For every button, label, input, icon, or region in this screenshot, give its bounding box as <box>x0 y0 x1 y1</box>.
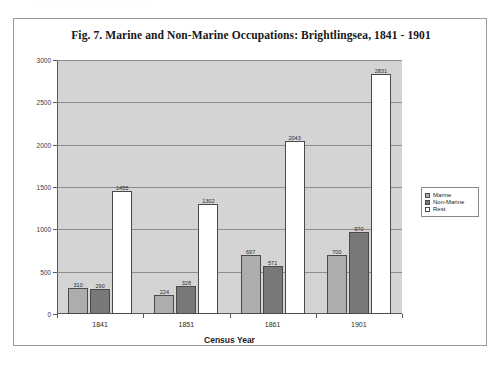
bar-marine[interactable]: 697 <box>241 255 261 314</box>
bar-marine[interactable]: 310 <box>68 288 88 314</box>
y-axis-label: 1000 <box>37 226 51 233</box>
bar-value-label: 310 <box>74 282 83 288</box>
x-axis-tick <box>57 314 58 318</box>
bar-rest[interactable]: 1302 <box>198 204 218 314</box>
bar-value-label: 1455 <box>116 185 128 191</box>
legend-item-nonmarine[interactable]: Non-Marine <box>425 199 475 205</box>
x-axis-tick <box>316 314 317 318</box>
plot-wrapper: 050010001500200025003000 310290145522432… <box>57 60 402 314</box>
legend-swatch-icon <box>425 200 430 205</box>
legend-item-marine[interactable]: Marine <box>425 192 475 198</box>
bar-value-label: 224 <box>160 289 169 295</box>
x-axis-tick <box>402 314 403 318</box>
legend-swatch-icon <box>425 193 430 198</box>
bar-group: 3102901455 <box>57 60 143 314</box>
bar-value-label: 1302 <box>202 198 214 204</box>
y-axis-label: 1500 <box>37 184 51 191</box>
legend-swatch-icon <box>425 207 430 212</box>
bar-nonmarine[interactable]: 328 <box>176 286 196 314</box>
bar-value-label: 970 <box>354 226 363 232</box>
bar-marine[interactable]: 224 <box>154 295 174 314</box>
bar-value-label: 571 <box>268 260 277 266</box>
y-axis-label: 500 <box>40 268 51 275</box>
bar-nonmarine[interactable]: 290 <box>90 289 110 314</box>
bar-value-label: 2831 <box>375 68 387 74</box>
bar-rest[interactable]: 2043 <box>285 141 305 314</box>
x-axis-label: 1861 <box>265 321 281 328</box>
bar-group: 6975712043 <box>230 60 316 314</box>
x-axis-label: 1851 <box>179 321 195 328</box>
x-axis-title: Census Year <box>57 335 402 345</box>
y-axis-label: 2500 <box>37 99 51 106</box>
x-axis-label: 1901 <box>351 321 367 328</box>
y-axis-label: 2000 <box>37 141 51 148</box>
chart-legend: MarineNon-MarineRest <box>421 187 479 217</box>
bar-value-label: 697 <box>246 249 255 255</box>
bar-marine[interactable]: 700 <box>327 255 347 314</box>
chart-title: Fig. 7. Marine and Non-Marine Occupation… <box>14 29 488 41</box>
legend-item-rest[interactable]: Rest <box>425 206 475 212</box>
legend-item-label: Non-Marine <box>433 199 464 205</box>
legend-item-label: Marine <box>433 192 451 198</box>
x-axis-label: 1841 <box>92 321 108 328</box>
bar-value-label: 290 <box>96 283 105 289</box>
bar-nonmarine[interactable]: 571 <box>263 266 283 314</box>
scan-artifact-line: · · · · · ·· · ·· · ·· · <box>0 0 501 14</box>
y-axis-label: 0 <box>47 311 51 318</box>
bar-value-label: 328 <box>182 280 191 286</box>
bar-rest[interactable]: 2831 <box>371 74 391 314</box>
bar-value-label: 700 <box>332 249 341 255</box>
bar-group: 2243281302 <box>143 60 229 314</box>
x-axis-tick <box>230 314 231 318</box>
x-axis-tick <box>143 314 144 318</box>
bar-rest[interactable]: 1455 <box>112 191 132 314</box>
bar-nonmarine[interactable]: 970 <box>349 232 369 314</box>
y-axis-label: 3000 <box>37 57 51 64</box>
legend-item-label: Rest <box>433 206 445 212</box>
bar-group: 7009702831 <box>316 60 402 314</box>
bar-value-label: 2043 <box>289 135 301 141</box>
figure-frame: Fig. 7. Marine and Non-Marine Occupation… <box>13 18 487 346</box>
